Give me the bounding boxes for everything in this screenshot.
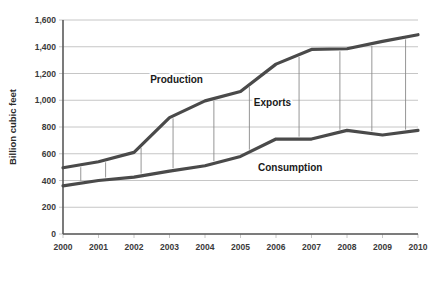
y-tick-label-1200: 1,200 (35, 69, 57, 79)
x-tick-label-2009: 2009 (373, 242, 392, 252)
x-axis-ticks-group: 2000200120022003200420052006200720082009… (54, 234, 428, 252)
exports-connectors-group (81, 39, 406, 180)
x-tick-label-2004: 2004 (196, 242, 215, 252)
x-tick-label-2002: 2002 (125, 242, 144, 252)
y-tick-label-0: 0 (51, 229, 56, 239)
x-tick-label-2003: 2003 (160, 242, 179, 252)
y-tick-label-600: 600 (42, 149, 56, 159)
y-tick-label-1600: 1,600 (35, 15, 57, 25)
x-tick-label-2005: 2005 (231, 242, 250, 252)
y-axis-title: Billion cubic feet (7, 88, 18, 165)
y-tick-label-1400: 1,400 (35, 42, 57, 52)
y-tick-label-1000: 1,000 (35, 95, 57, 105)
x-tick-label-2006: 2006 (267, 242, 286, 252)
x-tick-label-2010: 2010 (409, 242, 428, 252)
y-tick-label-800: 800 (42, 122, 56, 132)
x-tick-label-2008: 2008 (338, 242, 357, 252)
y-tick-label-200: 200 (42, 202, 56, 212)
y-axis-ticks-group: 02004006008001,0001,2001,4001,600 (35, 15, 63, 239)
x-tick-label-2000: 2000 (54, 242, 73, 252)
x-tick-label-2007: 2007 (302, 242, 321, 252)
series-label-production: Production (150, 74, 203, 85)
y-tick-label-400: 400 (42, 176, 56, 186)
series-label-exports: Exports (254, 97, 292, 108)
series-label-consumption: Consumption (258, 162, 322, 173)
series-line-production (63, 35, 418, 168)
gridlines-group (63, 20, 418, 234)
line-chart: 02004006008001,0001,2001,4001,600 200020… (0, 0, 433, 285)
x-tick-label-2001: 2001 (89, 242, 108, 252)
chart-page: 02004006008001,0001,2001,4001,600 200020… (0, 0, 433, 285)
